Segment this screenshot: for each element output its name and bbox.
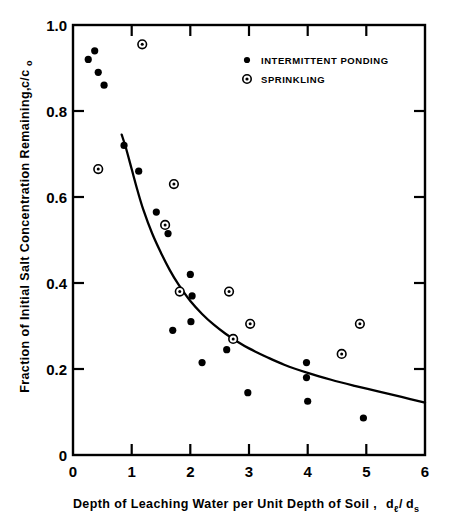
- scatter-plot: 1.0 0.8 0.6 0.4 0.2 0 0 1 2 3 4 5 6 Frac…: [0, 0, 452, 519]
- y-tick-label-0.4: 0.4: [46, 275, 68, 292]
- x-tick-label-5: 5: [362, 463, 370, 480]
- legend-label-intermittent-ponding: INTERMITTENT PONDING: [261, 55, 389, 66]
- y-tick-label-1.0: 1.0: [46, 17, 67, 34]
- y-tick-label-0.8: 0.8: [46, 103, 67, 120]
- data-point-sprinkling-center: [358, 322, 361, 325]
- x-tick-label-4: 4: [304, 463, 313, 480]
- data-point-ponding: [303, 359, 310, 366]
- y-axis-title-main: Fraction of Initial Salt Concentration R…: [18, 87, 32, 393]
- data-point-ponding: [135, 168, 142, 175]
- data-point-ponding: [153, 208, 160, 215]
- x-axis-tick-labels: 0 1 2 3 4 5 6: [69, 463, 429, 480]
- data-point-ponding: [198, 359, 205, 366]
- data-point-sprinkling-center: [249, 322, 252, 325]
- x-tick-label-1: 1: [128, 463, 136, 480]
- data-point-ponding: [223, 346, 230, 353]
- x-axis-title-numerator: d: [386, 497, 394, 511]
- x-tick-label-6: 6: [421, 463, 429, 480]
- y-tick-label-0: 0: [59, 447, 67, 464]
- y-tick-label-0.2: 0.2: [46, 361, 67, 378]
- data-point-ponding: [187, 318, 194, 325]
- legend-marker-filled-circle-icon: [244, 57, 250, 63]
- data-point-ponding: [244, 389, 251, 396]
- y-axis-title-symbol-subscript: o: [24, 60, 34, 66]
- data-point-sprinkling-center: [178, 290, 181, 293]
- data-point-ponding: [187, 271, 194, 278]
- data-point-ponding: [303, 374, 310, 381]
- x-axis-title-slash: /: [399, 497, 403, 511]
- x-tick-label-2: 2: [186, 463, 194, 480]
- x-axis-title: Depth of Leaching Water per Unit Depth o…: [73, 497, 419, 514]
- data-point-ponding: [169, 327, 176, 334]
- data-point-ponding: [91, 47, 98, 54]
- x-tick-label-3: 3: [245, 463, 253, 480]
- data-point-ponding: [164, 230, 171, 237]
- legend-marker-dotted-circle-center-icon: [245, 77, 248, 80]
- data-point-ponding: [120, 142, 127, 149]
- y-axis-tick-labels: 1.0 0.8 0.6 0.4 0.2 0: [46, 17, 68, 464]
- legend-label-sprinkling: SPRINKLING: [261, 74, 325, 85]
- y-tick-label-0.6: 0.6: [46, 189, 67, 206]
- x-tick-label-0: 0: [69, 463, 77, 480]
- data-point-ponding: [360, 414, 367, 421]
- series-intermittent-ponding: [85, 47, 367, 421]
- series-sprinkling: [94, 40, 364, 358]
- data-point-sprinkling-center: [340, 352, 343, 355]
- data-point-ponding: [304, 398, 311, 405]
- y-axis-title: Fraction of Initial Salt Concentration R…: [18, 60, 34, 393]
- data-point-sprinkling-center: [141, 43, 144, 46]
- figure-container: 1.0 0.8 0.6 0.4 0.2 0 0 1 2 3 4 5 6 Frac…: [0, 0, 452, 519]
- data-point-sprinkling-center: [164, 223, 167, 226]
- data-point-ponding: [100, 82, 107, 89]
- data-point-sprinkling-center: [228, 290, 231, 293]
- legend: INTERMITTENT PONDING SPRINKLING: [243, 55, 389, 85]
- x-axis-title-denominator-subscript: s: [414, 504, 419, 514]
- data-point-sprinkling-center: [232, 337, 235, 340]
- y-axis-title-symbol: c/c: [18, 69, 32, 88]
- data-point-ponding: [95, 69, 102, 76]
- x-axis-title-main: Depth of Leaching Water per Unit Depth o…: [73, 497, 377, 511]
- fitted-curve: [122, 135, 425, 403]
- data-point-sprinkling-center: [172, 183, 175, 186]
- x-axis-title-denominator: d: [406, 497, 414, 511]
- data-point-ponding: [188, 292, 195, 299]
- data-point-ponding: [85, 56, 92, 63]
- data-point-sprinkling-center: [97, 168, 100, 171]
